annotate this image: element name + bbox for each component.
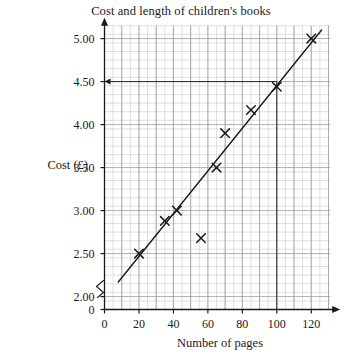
chart-title: Cost and length of children's books xyxy=(0,4,362,19)
chart-figure: Cost and length of children's books Cost… xyxy=(0,0,362,359)
y-axis-tick-label: 4.50 xyxy=(51,75,95,90)
y-axis-tick-label: 3.00 xyxy=(51,204,95,219)
axis-ticks-group xyxy=(101,39,312,314)
y-axis-tick-label: 3.50 xyxy=(51,161,95,176)
axes-group xyxy=(101,18,340,313)
x-axis-title: Number of pages xyxy=(90,336,350,351)
x-axis-tick-label: 120 xyxy=(291,317,331,332)
y-axis-break-icon xyxy=(97,281,104,298)
y-axis-tick-label: 2.50 xyxy=(51,247,95,262)
y-axis-tick-label: 4.00 xyxy=(51,118,95,133)
y-axis-origin-label: 0 xyxy=(51,303,95,318)
y-axis-tick-label: 5.00 xyxy=(51,32,95,47)
trend-line xyxy=(118,30,321,282)
